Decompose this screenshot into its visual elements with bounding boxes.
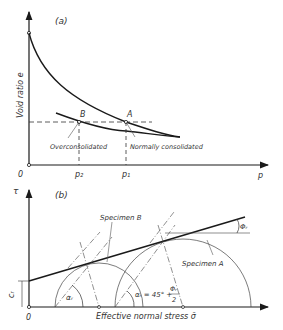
b-dashdot-2 xyxy=(80,242,99,307)
point-b-label: B xyxy=(80,110,86,119)
panel-a: (a) Void ratio e 0 p B A p₂ p₁ Overconso… xyxy=(16,12,268,180)
alpha-r-b-label: αᵣ xyxy=(66,293,74,302)
panel-b: (b) τ 0 Effective normal stress σ̄ cᵣ Sp… xyxy=(7,186,268,322)
b-origin-dot xyxy=(27,305,30,308)
alpha-formula: αᵣ = 45° + xyxy=(135,291,172,299)
alpha-arc-a xyxy=(127,291,134,307)
a-origin-label: 0 xyxy=(18,170,23,179)
failure-envelope xyxy=(29,217,245,281)
tau-label: τ xyxy=(13,186,19,196)
a-origin-dot xyxy=(27,163,30,166)
alpha-arc-b xyxy=(72,285,83,307)
normal-consolidation-curve xyxy=(29,33,180,137)
a-x-axis-label: p xyxy=(257,171,263,180)
phi-frac-denominator: 2 xyxy=(172,296,176,304)
phi-arc xyxy=(237,219,239,233)
p1-tick-label: p₁ xyxy=(121,170,130,179)
b-x-axis-label: Effective normal stress σ̄ xyxy=(96,312,197,321)
diagram-canvas: (a) Void ratio e 0 p B A p₂ p₁ Overconso… xyxy=(0,0,283,330)
p2-tick-label: p₂ xyxy=(74,170,84,179)
panel-b-label: (b) xyxy=(55,190,68,200)
overconsolidated-annotation: Overconsolidated xyxy=(50,143,108,151)
phi-frac-numerator: Φᵣ xyxy=(170,285,177,293)
specimen-a-label: Specimen A xyxy=(182,260,224,268)
specimen-b-label: Specimen B xyxy=(100,214,142,222)
point-a-label: A xyxy=(126,110,132,119)
phi-r-label: Φᵣ xyxy=(240,223,249,231)
b-dashdot-3 xyxy=(68,232,100,268)
b-dashdot-1 xyxy=(55,237,112,307)
normally-consolidated-annotation: Normally consolidated xyxy=(130,143,204,151)
a-y-axis-label: Void ratio e xyxy=(16,72,25,118)
leader-overconsolidated xyxy=(68,122,79,138)
cohesion-label: cᵣ xyxy=(7,291,16,298)
b-origin-label: 0 xyxy=(26,313,31,322)
panel-a-label: (a) xyxy=(55,16,68,26)
leader-specimen-a xyxy=(207,240,213,255)
